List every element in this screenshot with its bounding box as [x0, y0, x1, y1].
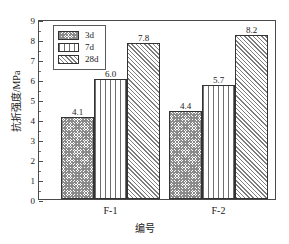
plot-area: 0123456789 4.16.07.84.45.78.2 F-1F-2 3d …	[38, 20, 276, 200]
bar-f-2-3d	[169, 111, 202, 199]
y-axis-tick-mark	[39, 121, 43, 122]
y-axis-tick-mark	[39, 101, 43, 102]
x-axis-title: 编号	[0, 220, 289, 235]
legend-item: 7d	[58, 42, 99, 53]
y-axis-tick-mark	[39, 161, 43, 162]
y-axis-minor-tick	[39, 51, 41, 52]
y-axis-minor-tick	[39, 131, 41, 132]
bar-f-1-28d	[127, 43, 160, 199]
y-axis-tick-label: 2	[17, 157, 35, 166]
bar-f-2-7d	[202, 85, 235, 199]
y-axis-minor-tick	[39, 111, 41, 112]
legend-item: 3d	[58, 30, 99, 41]
bar-value-label: 8.2	[232, 26, 272, 35]
x-axis-tick-label: F-2	[189, 205, 249, 216]
legend-label-28d: 28d	[85, 55, 99, 64]
y-axis-tick-mark	[39, 201, 43, 202]
legend-label-3d: 3d	[85, 31, 94, 40]
bar-f-1-3d	[61, 117, 94, 199]
y-axis-tick-mark	[39, 81, 43, 82]
y-axis-tick-label: 4	[17, 117, 35, 126]
legend: 3d 7d 28d	[53, 25, 106, 70]
legend-swatch-7d-icon	[58, 43, 79, 52]
legend-item: 28d	[58, 54, 99, 65]
y-axis-tick-label: 8	[17, 37, 35, 46]
bar-value-label: 5.7	[199, 76, 239, 85]
y-axis-minor-tick	[39, 31, 41, 32]
y-axis-minor-tick	[39, 191, 41, 192]
legend-swatch-3d-icon	[58, 31, 79, 40]
legend-label-7d: 7d	[85, 43, 94, 52]
y-axis-tick-mark	[39, 141, 43, 142]
y-axis-minor-tick	[39, 171, 41, 172]
y-axis-tick-mark	[39, 41, 43, 42]
y-axis-tick-mark	[39, 21, 43, 22]
y-axis-tick-label: 6	[17, 77, 35, 86]
bar-value-label: 7.8	[124, 34, 164, 43]
bar-chart-figure: 抗折强度/MPa 编号 0123456789 4.16.07.84.45.78.…	[0, 0, 289, 244]
y-axis-minor-tick	[39, 151, 41, 152]
x-axis-tick-label: F-1	[81, 205, 141, 216]
bar-f-2-28d	[235, 35, 268, 199]
y-axis-tick-label: 7	[17, 57, 35, 66]
legend-swatch-28d-icon	[58, 55, 79, 64]
y-axis-minor-tick	[39, 71, 41, 72]
y-axis-minor-tick	[39, 91, 41, 92]
bar-value-label: 6.0	[91, 70, 131, 79]
y-axis-tick-label: 5	[17, 97, 35, 106]
y-axis-tick-label: 9	[17, 17, 35, 26]
bar-value-label: 4.1	[58, 108, 98, 117]
y-axis-tick-label: 0	[17, 197, 35, 206]
y-axis-tick-mark	[39, 61, 43, 62]
y-axis-tick-label: 3	[17, 137, 35, 146]
y-axis-tick-mark	[39, 181, 43, 182]
y-axis-tick-label: 1	[17, 177, 35, 186]
bar-f-1-7d	[94, 79, 127, 199]
bar-value-label: 4.4	[166, 102, 206, 111]
